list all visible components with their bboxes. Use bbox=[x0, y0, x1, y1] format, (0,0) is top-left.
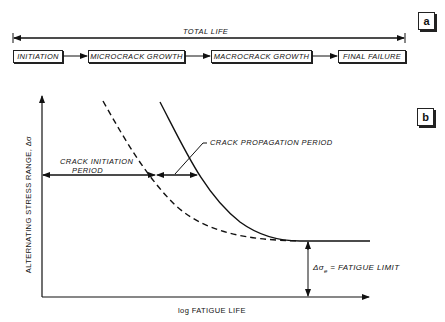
y-axis-label: ALTERNATING STRESS RANGE, Δσ bbox=[24, 135, 33, 275]
crack-propagation-label: CRACK PROPAGATION PERIOD bbox=[210, 138, 333, 147]
crack-initiation-curve bbox=[103, 101, 300, 241]
fatigue-limit-label: Δσe = FATIGUE LIMIT bbox=[313, 263, 399, 274]
crack-propagation-arrow bbox=[157, 143, 207, 175]
fatigue-limit-text: = FATIGUE LIMIT bbox=[328, 263, 400, 272]
total-life-curve bbox=[160, 102, 370, 241]
panel-b-tag: b bbox=[417, 108, 434, 126]
x-axis-label: log FATIGUE LIFE bbox=[178, 306, 246, 315]
total-life-arrow bbox=[13, 33, 405, 43]
crack-initiation-label-line2: PERIOD bbox=[72, 166, 103, 175]
crack-initiation-label-line1: CRACK INITIATION bbox=[60, 157, 133, 166]
delta-sigma-symbol: Δσ bbox=[313, 263, 324, 272]
